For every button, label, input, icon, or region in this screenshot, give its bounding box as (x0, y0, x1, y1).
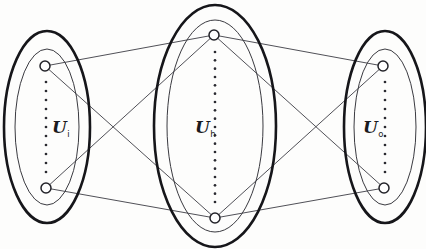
layer-hidden-ellipsis-dot (214, 142, 217, 145)
layer-input-ellipsis-dot (45, 126, 48, 129)
layer-hidden-ellipsis-dot (214, 59, 217, 62)
layer-hidden-label-base: U (195, 117, 211, 137)
layer-hidden-ellipsis-dot (214, 192, 217, 195)
layer-hidden-ellipsis-dot (214, 201, 217, 204)
edge-h-top-to-o-bottom (214, 35, 384, 188)
layer-input-ellipsis-dot (45, 90, 48, 93)
layer-output-label-base: U (363, 117, 379, 137)
layer-hidden-ellipsis-dot (214, 92, 217, 95)
edge-i-top-to-h-top (45, 35, 214, 66)
unit-node-o-bottom (379, 183, 389, 193)
layer-hidden-ellipsis-dot (214, 159, 217, 162)
layer-output-label: Uo (363, 117, 384, 139)
unit-node-o-top (378, 61, 388, 71)
layer-output-ellipsis-dot (384, 90, 387, 93)
layer-input-label-subscript: i (67, 129, 69, 139)
layer-output-ellipsis-dot (384, 171, 387, 174)
layer-output-ellipsis-dot (384, 117, 387, 120)
layer-input-ellipsis-dot (45, 162, 48, 165)
layer-hidden-ellipsis-dot (214, 109, 217, 112)
layer-output-ellipsis-dot (384, 108, 387, 111)
network-diagram: UiUhUo (0, 0, 426, 249)
layer-input-ellipsis-dot (45, 171, 48, 174)
layer-hidden-ellipsis-dot (214, 117, 217, 120)
unit-node-h-bottom (210, 213, 220, 223)
unit-node-h-top (209, 30, 219, 40)
ellipsis-dots-group (45, 51, 387, 204)
edge-i-top-to-h-bottom (45, 66, 215, 218)
layer-output-ellipsis-dot (384, 135, 387, 138)
layer-output-ellipsis-dot (384, 162, 387, 165)
layer-hidden-ellipsis-dot (214, 67, 217, 70)
edge-i-bottom-to-h-bottom (46, 188, 215, 218)
layer-hidden-ellipsis-dot (214, 76, 217, 79)
layer-hidden-ellipsis-dot (214, 151, 217, 154)
edge-h-top-to-o-top (214, 35, 383, 66)
layer-hidden-label-subscript: h (210, 129, 215, 139)
layer-hidden-ellipsis-dot (214, 101, 217, 104)
unit-node-i-bottom (41, 183, 51, 193)
layer-output-ellipsis-dot (384, 99, 387, 102)
layer-input-ellipsis-dot (45, 144, 48, 147)
unit-node-i-top (40, 61, 50, 71)
layer-input-label-base: U (52, 117, 68, 137)
layer-output-ellipsis-dot (384, 126, 387, 129)
layer-input-ellipsis-dot (45, 153, 48, 156)
layer-output-ellipsis-dot (384, 144, 387, 147)
edge-i-bottom-to-h-top (46, 35, 214, 188)
layer-hidden-ellipsis-dot (214, 176, 217, 179)
layer-hidden-ellipsis-dot (214, 51, 217, 54)
layer-hidden-ellipsis-dot (214, 167, 217, 170)
network-diagram-canvas: UiUhUo (0, 0, 426, 249)
layer-hidden-ellipsis-dot (214, 84, 217, 87)
layer-input-ellipsis-dot (45, 135, 48, 138)
layer-output-ellipsis-dot (384, 81, 387, 84)
layer-hidden-label: Uh (195, 117, 216, 139)
layer-input-ellipsis-dot (45, 108, 48, 111)
layer-output-ellipsis-dot (384, 153, 387, 156)
layer-output-label-subscript: o (378, 129, 383, 139)
layer-hidden-ellipsis-dot (214, 184, 217, 187)
layer-input-ellipsis-dot (45, 99, 48, 102)
layer-input-ellipsis-dot (45, 81, 48, 84)
layer-input-label: Ui (52, 117, 70, 139)
layer-input-ellipsis-dot (45, 117, 48, 120)
layer-labels-group: UiUhUo (52, 117, 384, 139)
